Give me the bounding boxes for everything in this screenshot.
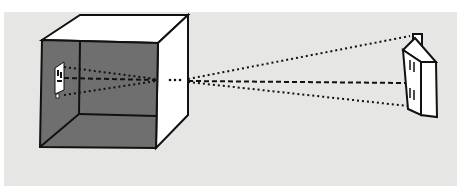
- pinhole: [169, 79, 182, 82]
- camera-obscura-diagram: [0, 0, 457, 186]
- house-icon: [403, 34, 437, 117]
- projection-rays-outside: [188, 36, 410, 106]
